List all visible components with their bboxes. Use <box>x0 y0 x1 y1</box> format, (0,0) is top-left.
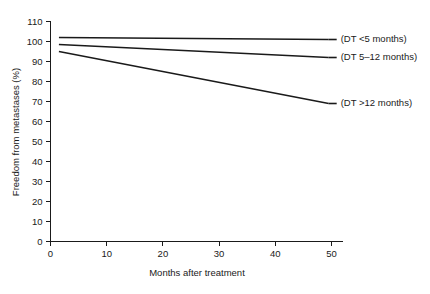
series-label: (DT >12 months) <box>341 97 412 108</box>
series-labels-group: (DT <5 months)(DT 5–12 months)(DT >12 mo… <box>341 33 417 108</box>
y-tick-label: 100 <box>27 36 43 47</box>
y-tick-label: 40 <box>32 156 43 167</box>
y-tick-label: 90 <box>32 56 43 67</box>
x-tick-label: 50 <box>326 248 337 259</box>
series-line <box>59 45 329 58</box>
y-tick-label: 110 <box>27 16 42 27</box>
y-tick-label: 70 <box>32 96 43 107</box>
x-axis-title: Months after treatment <box>149 267 245 278</box>
axis-group <box>51 22 343 242</box>
chart-figure: 0102030405060708090100110 01020304050 (D… <box>0 0 430 294</box>
y-tick-label: 80 <box>32 76 43 87</box>
y-tick-label: 0 <box>37 236 42 247</box>
x-tick-label: 30 <box>214 248 225 259</box>
x-axis-ticks: 01020304050 <box>48 242 337 259</box>
y-tick-label: 20 <box>32 196 43 207</box>
series-line <box>59 38 329 40</box>
series-label: (DT 5–12 months) <box>341 51 417 62</box>
x-tick-label: 10 <box>101 248 112 259</box>
y-tick-label: 50 <box>32 136 43 147</box>
series-lines-group <box>59 38 337 104</box>
x-tick-label: 40 <box>270 248 281 259</box>
series-label: (DT <5 months) <box>341 33 407 44</box>
x-tick-label: 0 <box>48 248 53 259</box>
x-tick-label: 20 <box>158 248 169 259</box>
line-chart-canvas: 0102030405060708090100110 01020304050 (D… <box>0 0 430 294</box>
y-tick-label: 60 <box>32 116 43 127</box>
y-axis-ticks: 0102030405060708090100110 <box>27 16 51 247</box>
series-line <box>59 52 329 104</box>
y-axis-title: Freedom from metastases (%) <box>10 68 21 196</box>
y-tick-label: 10 <box>32 216 43 227</box>
y-tick-label: 30 <box>32 176 43 187</box>
